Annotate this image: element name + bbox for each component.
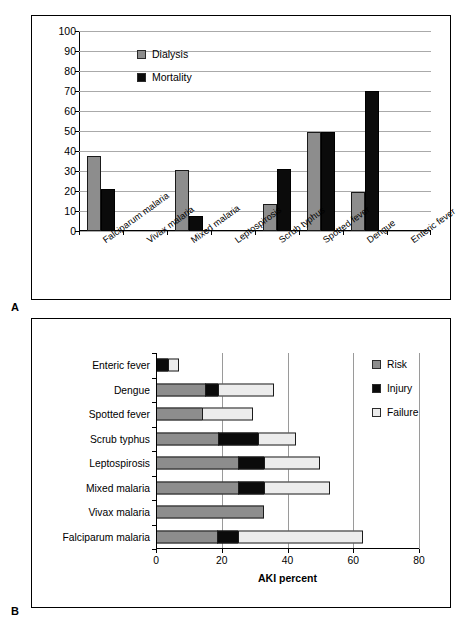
stacked-bar xyxy=(156,383,274,396)
bar-segment-failure xyxy=(238,530,363,543)
stacked-bar xyxy=(156,506,264,519)
y-tick-label: Mixed malaria xyxy=(86,482,150,493)
y-tick-label: Scrub typhus xyxy=(90,433,150,444)
bar-dialysis xyxy=(87,156,101,231)
bar-mortality xyxy=(101,189,115,231)
legend-item: Risk xyxy=(372,359,418,370)
bar-segment-failure xyxy=(264,481,330,494)
bar-segment-failure xyxy=(264,457,320,470)
legend-swatch-icon xyxy=(137,73,146,82)
bar-group xyxy=(211,31,255,231)
bar-segment-risk xyxy=(156,432,218,445)
panel-b-chart: Enteric feverDengueSpotted feverScrub ty… xyxy=(31,318,451,608)
bar-segment-risk xyxy=(156,383,205,396)
stacked-bar xyxy=(156,408,253,421)
panel-a-bars xyxy=(79,31,431,231)
bar-group xyxy=(387,31,431,231)
bar-mortality xyxy=(321,132,335,231)
figure-container: A 1009080706050403020100 Falciparum mala… xyxy=(0,0,465,627)
bar-row: Vivax malaria xyxy=(156,500,419,525)
x-tick-label: 40 xyxy=(282,555,293,566)
legend-swatch-icon xyxy=(372,360,381,369)
bar-segment-failure xyxy=(202,408,253,421)
bar-row: Leptospirosis xyxy=(156,451,419,476)
legend-swatch-icon xyxy=(372,408,381,417)
bar-segment-injury xyxy=(156,359,168,372)
x-tick-mark xyxy=(288,549,289,553)
x-tick-label: 80 xyxy=(413,555,424,566)
panel-a-chart: 1009080706050403020100 Falciparum malari… xyxy=(31,15,451,300)
x-tick-label: 0 xyxy=(153,555,159,566)
bar-segment-injury xyxy=(205,383,218,396)
bar-group xyxy=(79,31,123,231)
x-tick-mark xyxy=(222,549,223,553)
bar-segment-injury xyxy=(238,481,264,494)
y-tick-label: Leptospirosis xyxy=(89,458,150,469)
legend-item: Failure xyxy=(372,407,418,418)
legend-item: Dialysis xyxy=(137,48,192,60)
bar-segment-risk xyxy=(156,506,264,519)
legend-label: Failure xyxy=(387,407,418,418)
y-tick-label: Spotted fever xyxy=(89,409,150,420)
legend-label: Mortality xyxy=(152,71,192,83)
x-tick-label: 20 xyxy=(216,555,227,566)
bar-segment-injury xyxy=(217,530,238,543)
bar-segment-risk xyxy=(156,408,202,421)
bar-row: Mixed malaria xyxy=(156,476,419,501)
stacked-bar xyxy=(156,432,296,445)
legend-label: Risk xyxy=(387,359,407,370)
bar-segment-injury xyxy=(238,457,264,470)
x-tick-mark xyxy=(79,231,80,235)
stacked-bar xyxy=(156,457,320,470)
bar-segment-failure xyxy=(258,432,296,445)
y-tick-label: Vivax malaria xyxy=(88,507,150,518)
x-tick-mark xyxy=(419,549,420,553)
x-tick-label: 60 xyxy=(348,555,359,566)
bar-segment-injury xyxy=(218,432,257,445)
legend-label: Dialysis xyxy=(152,48,188,60)
panel-b-x-axis xyxy=(156,548,419,549)
stacked-bar xyxy=(156,530,363,543)
bar-segment-risk xyxy=(156,530,217,543)
gridline xyxy=(419,353,420,549)
y-tick-label: Dengue xyxy=(114,384,150,395)
x-tick-mark xyxy=(353,549,354,553)
bar-segment-risk xyxy=(156,481,238,494)
panel-b-legend: RiskInjuryFailure xyxy=(372,359,418,431)
panel-b-x-axis-title: AKI percent xyxy=(156,572,419,584)
bar-group xyxy=(299,31,343,231)
bar-segment-risk xyxy=(156,457,238,470)
panel-b-letter: B xyxy=(11,605,19,617)
legend-label: Injury xyxy=(387,383,412,394)
panel-a-plot-area: 1009080706050403020100 Falciparum malari… xyxy=(79,31,431,231)
legend-item: Injury xyxy=(372,383,418,394)
bar-segment-failure xyxy=(218,383,274,396)
y-tick-label: 100 xyxy=(58,25,76,37)
bar-row: Falciparum malaria xyxy=(156,525,419,550)
legend-swatch-icon xyxy=(372,384,381,393)
legend-item: Mortality xyxy=(137,71,192,83)
panel-b-y-axis xyxy=(156,353,157,549)
legend-swatch-icon xyxy=(137,50,146,59)
x-tick-mark xyxy=(156,549,157,553)
y-tick-label: Enteric fever xyxy=(92,360,150,371)
bar-group xyxy=(343,31,387,231)
stacked-bar xyxy=(156,481,330,494)
y-tick-label: Falciparum malaria xyxy=(62,531,150,542)
panel-a-legend: DialysisMortality xyxy=(137,48,192,94)
panel-a-letter: A xyxy=(11,301,19,313)
bar-segment-failure xyxy=(168,359,180,372)
bar-mortality xyxy=(277,169,291,231)
bar-group xyxy=(255,31,299,231)
stacked-bar xyxy=(156,359,179,372)
